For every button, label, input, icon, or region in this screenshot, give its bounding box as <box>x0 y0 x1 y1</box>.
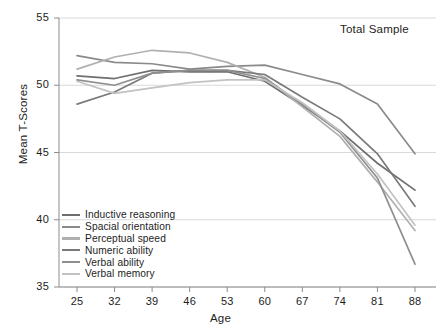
y-tick-marks <box>54 18 59 287</box>
legend-item: Numeric ability <box>62 244 175 256</box>
legend-label: Spacial orientation <box>85 221 171 232</box>
legend-item: Inductive reasoning <box>62 209 175 221</box>
legend-swatch-icon <box>62 261 80 263</box>
x-tick-marks <box>77 287 415 292</box>
legend-swatch-icon <box>62 273 80 275</box>
y-tick-label-40: 40 <box>25 213 49 225</box>
legend-swatch-icon <box>62 237 80 239</box>
x-tick-label-53: 53 <box>214 295 240 307</box>
legend-swatch-icon <box>62 226 80 228</box>
legend-swatch-icon <box>62 249 80 251</box>
y-tick-label-35: 35 <box>25 280 49 292</box>
legend-swatch-icon <box>62 214 80 216</box>
legend-label: Verbal ability <box>85 257 144 268</box>
legend-item: Perceptual speed <box>62 233 175 245</box>
legend-label: Verbal memory <box>85 268 155 279</box>
legend-item: Verbal memory <box>62 268 175 280</box>
series-line-0 <box>77 70 415 190</box>
x-tick-label-39: 39 <box>139 295 165 307</box>
x-tick-label-25: 25 <box>64 295 90 307</box>
x-tick-label-74: 74 <box>327 295 353 307</box>
legend-item: Spacial orientation <box>62 221 175 233</box>
plot-canvas <box>0 0 441 335</box>
legend-label: Numeric ability <box>85 245 153 256</box>
legend-item: Verbal ability <box>62 256 175 268</box>
legend-label: Perceptual speed <box>85 233 166 244</box>
x-tick-label-81: 81 <box>364 295 390 307</box>
total-sample-annotation: Total Sample <box>340 23 409 35</box>
x-tick-label-88: 88 <box>402 295 428 307</box>
chart-legend: Inductive reasoningSpacial orientationPe… <box>62 209 175 280</box>
x-tick-label-60: 60 <box>252 295 278 307</box>
x-tick-label-46: 46 <box>177 295 203 307</box>
x-axis-title: Age <box>0 312 441 324</box>
y-tick-label-55: 55 <box>25 11 49 23</box>
y-axis-title: Mean T-Scores <box>17 69 29 179</box>
line-chart: 3540455055 25323946536067748188 Mean T-S… <box>0 0 441 335</box>
legend-label: Inductive reasoning <box>85 209 175 220</box>
x-tick-label-67: 67 <box>289 295 315 307</box>
x-tick-label-32: 32 <box>102 295 128 307</box>
